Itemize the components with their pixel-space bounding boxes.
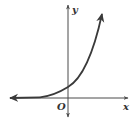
y-axis-label: y xyxy=(71,4,79,15)
exponential-graph: y O x xyxy=(0,0,138,120)
exponential-curve xyxy=(40,14,102,97)
x-axis-label: x xyxy=(122,101,130,112)
curve-left-tail xyxy=(10,97,40,98)
origin-label: O xyxy=(57,101,66,112)
